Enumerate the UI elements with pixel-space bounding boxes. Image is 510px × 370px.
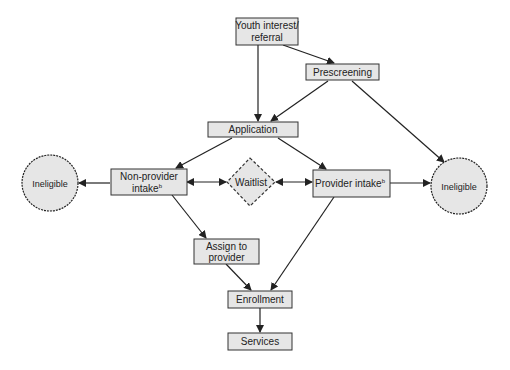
node-label: Assign to <box>206 241 248 252</box>
node-label: Provider intake <box>315 178 382 189</box>
node-prescreening: Prescreening <box>306 64 379 80</box>
edge-application-nonprovider <box>176 138 232 168</box>
node-provider-intake: Provider intakeb <box>313 170 390 197</box>
node-application: Application <box>208 122 298 137</box>
edge-prescreening-application <box>271 81 328 121</box>
node-enrollment: Enrollment <box>228 291 292 308</box>
node-waitlist: Waitlist <box>227 158 275 206</box>
node-ineligible-right: Ineligible <box>431 158 487 214</box>
node-label: Prescreening <box>313 67 372 78</box>
node-label: Ineligible <box>32 179 68 189</box>
node-label: intake <box>132 183 159 194</box>
node-services: Services <box>228 333 292 350</box>
svg-text:intakeb: intakeb <box>132 183 163 194</box>
node-label: Ineligible <box>441 182 477 192</box>
node-label: referral <box>251 32 283 43</box>
edge-nonprovider-assign <box>172 195 206 238</box>
edge-prescreening-ineligible-right <box>352 81 444 162</box>
edge-application-provider <box>278 138 326 169</box>
node-label: Services <box>241 336 279 347</box>
node-label: Application <box>229 124 278 135</box>
node-label: provider <box>208 252 245 263</box>
node-ineligible-left: Ineligible <box>22 155 78 211</box>
node-youth-referral: Youth interest/ referral <box>235 18 299 45</box>
node-label: Youth interest/ <box>235 20 299 31</box>
node-label: Non-provider <box>120 171 178 182</box>
node-label: Enrollment <box>236 294 284 305</box>
node-assign-to-provider: Assign to provider <box>194 239 259 264</box>
edge-youth-prescreening <box>283 45 334 63</box>
svg-text:Provider intakeb: Provider intakeb <box>315 178 386 189</box>
edge-provider-enrollment <box>271 197 334 290</box>
node-label: Waitlist <box>235 177 267 188</box>
flowchart: Youth interest/ referral Prescreening Ap… <box>0 0 510 370</box>
edge-assign-enrollment <box>226 264 251 290</box>
node-nonprovider-intake: Non-provider intakeb <box>111 169 187 195</box>
